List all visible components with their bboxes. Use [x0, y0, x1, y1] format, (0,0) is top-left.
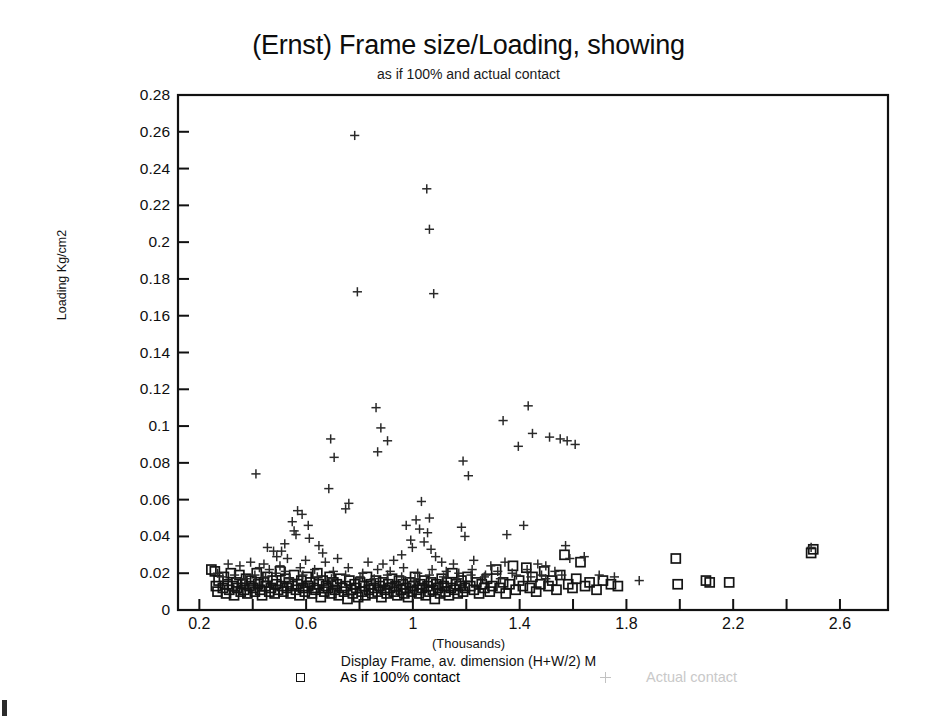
data-point-plus	[397, 550, 406, 559]
data-point-plus	[512, 570, 521, 579]
data-point-plus	[389, 556, 398, 565]
data-point-plus	[563, 436, 572, 445]
data-point-plus	[363, 558, 372, 567]
data-point-plus	[464, 471, 473, 480]
data-point-plus	[373, 565, 382, 574]
data-point-plus	[402, 521, 411, 530]
data-point-plus	[288, 517, 297, 526]
data-point-plus	[545, 433, 554, 442]
data-point-plus	[514, 442, 523, 451]
data-point-plus	[235, 561, 244, 570]
data-point-plus	[595, 570, 604, 579]
data-point-plus	[528, 429, 537, 438]
data-point-plus	[350, 131, 359, 140]
data-point-plus	[326, 434, 335, 443]
data-point-square	[673, 580, 682, 589]
data-point-plus	[399, 563, 408, 572]
data-point-plus	[419, 537, 428, 546]
legend-item-as-if-100-contact: As if 100% contact	[296, 669, 460, 685]
data-point-plus	[301, 556, 310, 565]
data-point-plus	[425, 225, 434, 234]
data-point-plus	[415, 524, 424, 533]
data-point-plus	[283, 554, 292, 563]
data-point-plus	[371, 403, 380, 412]
data-point-plus	[422, 184, 431, 193]
data-point-plus	[561, 541, 570, 550]
data-point-square	[522, 563, 531, 572]
data-point-plus	[635, 576, 644, 585]
x-axis-unit-note: (Thousands)	[0, 636, 937, 651]
data-point-plus	[519, 521, 528, 530]
legend-item-actual-contact: Actual contact	[600, 669, 737, 685]
data-point-plus	[330, 453, 339, 462]
data-point-plus	[408, 543, 417, 552]
data-point-plus	[321, 558, 330, 567]
data-point-plus	[499, 416, 508, 425]
data-point-plus	[431, 552, 440, 561]
legend-label: Actual contact	[646, 669, 737, 685]
data-point-square	[671, 554, 680, 563]
data-point-plus	[417, 497, 426, 506]
data-point-plus	[333, 554, 342, 563]
data-point-plus	[383, 436, 392, 445]
data-point-plus	[429, 289, 438, 298]
data-point-plus	[457, 523, 466, 532]
data-point-square	[725, 578, 734, 587]
data-point-plus	[502, 530, 511, 539]
data-point-plus	[378, 559, 387, 568]
data-point-plus	[423, 528, 432, 537]
data-point-plus	[524, 401, 533, 410]
data-point-plus	[458, 456, 467, 465]
data-point-plus	[376, 423, 385, 432]
data-point-plus	[425, 513, 434, 522]
open-square-icon	[296, 673, 305, 682]
data-point-plus	[426, 545, 435, 554]
data-point-plus	[304, 521, 313, 530]
plus-marker-icon	[600, 672, 611, 683]
data-point-plus	[246, 558, 255, 567]
chart-container: (Ernst) Frame size/Loading, showing as i…	[0, 0, 937, 722]
x-axis-label: Display Frame, av. dimension (H+W/2) M	[0, 653, 937, 669]
data-point-plus	[486, 561, 495, 570]
data-point-plus	[571, 440, 580, 449]
plot-area	[0, 0, 937, 722]
data-point-plus	[469, 556, 478, 565]
data-point-plus	[353, 287, 362, 296]
data-point-plus	[437, 558, 446, 567]
series-actual-contact	[213, 131, 816, 585]
data-point-square	[508, 561, 517, 570]
data-point-plus	[324, 484, 333, 493]
data-point-square	[501, 589, 510, 598]
data-point-plus	[406, 536, 415, 545]
data-point-plus	[556, 434, 565, 443]
data-point-plus	[449, 559, 458, 568]
chart-legend: As if 100% contact Actual contact	[0, 669, 937, 695]
data-point-plus	[411, 515, 420, 524]
data-point-plus	[460, 532, 469, 541]
data-point-plus	[580, 552, 589, 561]
data-point-plus	[565, 554, 574, 563]
legend-label: As if 100% contact	[340, 669, 460, 685]
data-point-plus	[373, 447, 382, 456]
data-point-plus	[224, 559, 233, 568]
data-point-plus	[305, 534, 314, 543]
data-point-plus	[251, 469, 260, 478]
page-edge-artifact	[2, 700, 7, 716]
